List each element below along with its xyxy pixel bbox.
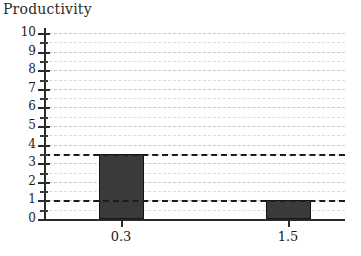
y-axis-minor-tick: [40, 61, 48, 63]
bar[interactable]: [99, 154, 144, 219]
y-axis-minor-tick: [40, 210, 48, 212]
x-axis-line: [44, 219, 345, 221]
reference-line: [44, 154, 345, 156]
y-axis-tick: [38, 219, 50, 221]
y-axis-tick: [38, 200, 50, 202]
y-axis-minor-tick: [40, 117, 48, 119]
y-axis-tick-label: 3: [2, 155, 36, 169]
x-axis-tick-label: 1.5: [258, 229, 318, 244]
y-axis-tick-label: 4: [2, 137, 36, 151]
y-axis-labels: 012345678910: [0, 0, 36, 256]
y-axis-tick: [38, 70, 50, 72]
y-axis-minor-tick: [40, 42, 48, 44]
reference-line: [44, 200, 345, 202]
y-axis-tick-label: 7: [2, 81, 36, 95]
y-axis-tick: [38, 145, 50, 147]
x-axis-tick-label: 0.3: [91, 229, 151, 244]
productivity-bar-chart: Productivity 012345678910 0.31.5: [0, 0, 361, 256]
y-axis-tick: [38, 126, 50, 128]
bars-layer: [44, 33, 345, 219]
y-axis-minor-tick: [40, 191, 48, 193]
y-axis-minor-tick: [40, 98, 48, 100]
y-axis-minor-tick: [40, 135, 48, 137]
y-axis-tick-label: 8: [2, 62, 36, 76]
y-axis-tick-label: 6: [2, 99, 36, 113]
y-axis-tick: [38, 33, 50, 35]
y-axis-tick-label: 1: [2, 192, 36, 206]
y-axis-tick-label: 10: [2, 25, 36, 39]
y-axis-tick: [38, 182, 50, 184]
y-axis-tick-label: 2: [2, 174, 36, 188]
x-axis-tick: [288, 219, 290, 227]
x-axis-tick: [121, 219, 123, 227]
y-axis-tick: [38, 163, 50, 165]
y-axis-tick: [38, 89, 50, 91]
y-axis-tick: [38, 52, 50, 54]
y-axis-minor-tick: [40, 80, 48, 82]
y-axis-tick-label: 0: [2, 211, 36, 225]
y-axis-tick-label: 5: [2, 118, 36, 132]
y-axis-minor-tick: [40, 173, 48, 175]
y-axis-tick-label: 9: [2, 44, 36, 58]
bar[interactable]: [266, 200, 311, 219]
y-axis-minor-tick: [40, 154, 48, 156]
y-axis-tick: [38, 107, 50, 109]
